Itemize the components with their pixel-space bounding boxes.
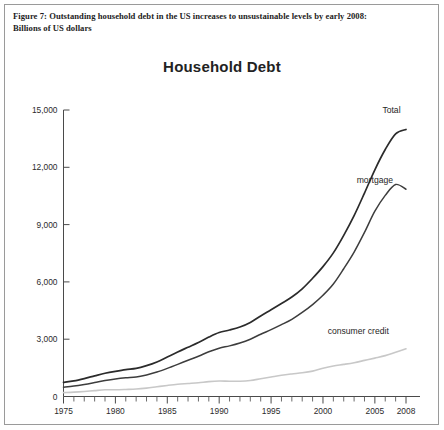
series-label-consumer-credit: consumer credit xyxy=(328,326,390,336)
series-label-mortgage: mortgage xyxy=(357,175,394,185)
y-tick-label: 6,000 xyxy=(37,277,58,287)
y-tick-label: 3,000 xyxy=(37,334,58,344)
x-tick-label: 1995 xyxy=(262,406,281,416)
figure-page: Figure 7: Outstanding household debt in … xyxy=(0,0,444,430)
x-tick-label: 1980 xyxy=(106,406,125,416)
y-tick-label: 12,000 xyxy=(32,162,58,172)
x-tick-label: 1975 xyxy=(54,406,73,416)
y-tick-label: 9,000 xyxy=(37,220,58,230)
y-tick-label: 15,000 xyxy=(32,105,58,115)
series-annotations: Totalmortgageconsumer credit xyxy=(328,105,401,336)
x-tick-label: 2008 xyxy=(397,406,416,416)
series-lines xyxy=(64,129,407,392)
chart-plot-area: 03,0006,0009,00012,00015,000 19751980198… xyxy=(0,0,444,430)
x-tick-label: 2005 xyxy=(366,406,385,416)
x-tick-label: 1985 xyxy=(158,406,177,416)
series-label-total: Total xyxy=(382,105,400,115)
x-tick-label: 1990 xyxy=(210,406,229,416)
y-tick-label: 0 xyxy=(53,392,58,402)
x-axis: 19751980198519901995200020052008 xyxy=(54,397,420,416)
y-axis: 03,0006,0009,00012,00015,000 xyxy=(32,105,70,402)
x-tick-label: 2000 xyxy=(314,406,333,416)
household-debt-line-chart: 03,0006,0009,00012,00015,000 19751980198… xyxy=(0,0,444,430)
